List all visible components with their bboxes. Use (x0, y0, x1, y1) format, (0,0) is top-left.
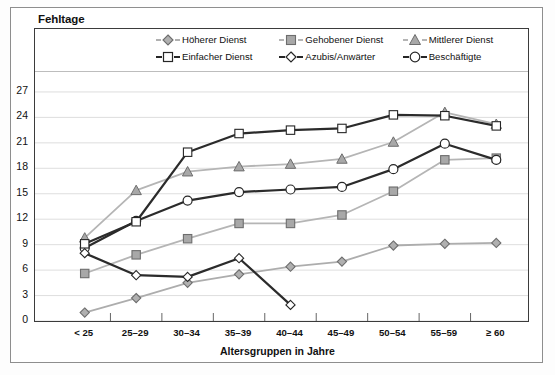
data-point-marker (286, 126, 294, 134)
y-axis-tick-9: 9 (2, 237, 28, 249)
data-point-marker (235, 219, 243, 227)
y-axis-tick-24: 24 (2, 109, 28, 121)
data-point-marker (441, 156, 449, 164)
y-axis-tick-3: 3 (2, 288, 28, 300)
data-point-marker (132, 271, 141, 280)
chart-page: Fehltage Höherer DienstGehobener DienstM… (0, 0, 555, 375)
data-point-marker (338, 211, 346, 219)
x-axis-title: Altersgruppen in Jahre (0, 345, 555, 357)
data-point-marker (388, 137, 398, 146)
gridlines (35, 92, 528, 321)
data-point-marker (337, 182, 346, 191)
data-point-marker (132, 293, 141, 302)
data-point-marker (440, 139, 449, 148)
data-point-marker (183, 196, 192, 205)
y-axis-tick-15: 15 (2, 186, 28, 198)
data-point-marker (286, 185, 295, 194)
data-point-marker (132, 251, 140, 259)
data-point-marker (235, 188, 244, 197)
data-point-marker (81, 269, 89, 277)
y-axis-tick-0: 0 (2, 313, 28, 325)
y-axis-tick-18: 18 (2, 160, 28, 172)
data-point-marker (338, 124, 346, 132)
data-point-marker (441, 112, 449, 120)
series-5 (80, 139, 501, 252)
chart-title: Fehltage (38, 13, 85, 25)
y-axis-tick-6: 6 (2, 262, 28, 274)
data-point-marker (183, 235, 191, 243)
data-point-marker (234, 270, 243, 279)
x-axis-tick-8: ≥ 60 (465, 327, 525, 338)
data-point-marker (235, 129, 243, 137)
series-4 (80, 249, 295, 310)
data-point-marker (389, 165, 398, 174)
data-point-marker (389, 187, 397, 195)
data-point-marker (492, 155, 501, 164)
data-point-marker (440, 239, 449, 248)
data-point-marker (132, 218, 140, 226)
y-axis-tick-27: 27 (2, 84, 28, 96)
data-point-marker (183, 148, 191, 156)
data-point-marker (492, 238, 501, 247)
data-point-marker (389, 111, 397, 119)
plot-svg (35, 29, 528, 321)
y-axis-tick-21: 21 (2, 135, 28, 147)
y-axis-tick-12: 12 (2, 211, 28, 223)
data-point-marker (337, 257, 346, 266)
data-point-marker (81, 240, 89, 248)
data-point-marker (492, 122, 500, 130)
data-point-marker (389, 241, 398, 250)
category-separators (110, 313, 470, 321)
data-point-marker (286, 219, 294, 227)
series-1 (81, 154, 501, 278)
data-point-marker (80, 308, 89, 317)
plot-area: Höherer DienstGehobener DienstMittlerer … (34, 28, 529, 322)
data-point-marker (183, 272, 192, 281)
